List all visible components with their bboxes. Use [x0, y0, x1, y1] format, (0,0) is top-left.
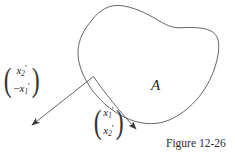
vector-rotated: ( x2′ −x1′ ): [2, 62, 41, 98]
vector-original-entry-2: x2′: [103, 122, 113, 140]
vector-rotated-entries: x2′ −x1′: [13, 62, 30, 98]
figure-caption: Figure 12-26: [166, 138, 226, 150]
vector-rotated-entry-1: x2′: [16, 62, 26, 80]
vector-original: ( x1′ x2′ ): [92, 104, 125, 140]
right-paren-icon: ): [32, 66, 40, 94]
left-paren-icon: (: [94, 108, 102, 136]
region-label-a: A: [151, 78, 160, 93]
vector-original-entries: x1′ x2′: [103, 104, 113, 140]
left-paren-icon: (: [4, 66, 12, 94]
vector-original-entry-1: x1′: [103, 104, 113, 122]
vector-rotated-entry-2: −x1′: [13, 80, 30, 98]
right-paren-icon: ): [115, 108, 123, 136]
figure-container: A ( x2′ −x1′ ) ( x1′ x2′ ) Figure 12-26: [0, 0, 235, 157]
